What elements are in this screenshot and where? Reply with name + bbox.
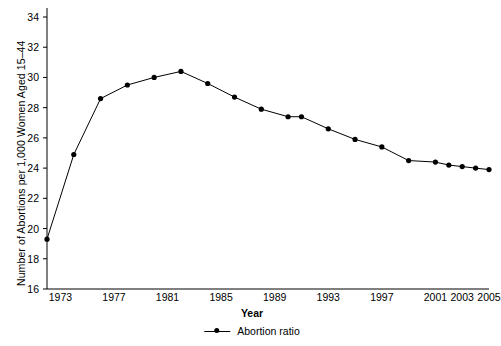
- x-tick-label: 2001: [424, 292, 447, 303]
- x-tick-label: 1973: [49, 292, 72, 303]
- legend-label: Abortion ratio: [237, 325, 299, 337]
- x-tick-label: 1989: [263, 292, 286, 303]
- x-tick-label: 2005: [477, 292, 500, 303]
- x-tick-label: 1993: [317, 292, 340, 303]
- x-tick-label: 1977: [102, 292, 125, 303]
- legend-dot-icon: [214, 328, 219, 333]
- x-tick-label: 1997: [370, 292, 393, 303]
- x-axis-title: Year: [241, 307, 263, 319]
- chart-legend: Abortion ratio: [204, 325, 299, 337]
- x-tick-label: 2003: [451, 292, 474, 303]
- x-tick-label: 1981: [156, 292, 179, 303]
- legend-marker-icon: [204, 326, 230, 336]
- x-tick-label: 1985: [209, 292, 232, 303]
